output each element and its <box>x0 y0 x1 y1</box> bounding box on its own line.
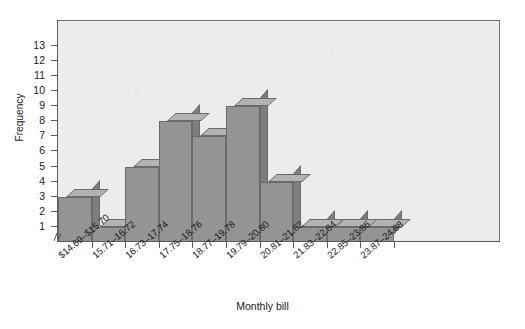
x-tick-4 <box>226 242 227 248</box>
y-tick-12 <box>51 60 58 61</box>
y-tick-7 <box>51 135 58 136</box>
x-tick-3 <box>192 242 193 248</box>
y-tick-label-3: 3 <box>23 191 45 201</box>
bars-layer <box>57 20 500 242</box>
y-tick-1 <box>51 226 58 227</box>
y-tick-label-13: 13 <box>23 40 45 50</box>
bar-top-face <box>167 113 209 121</box>
y-tick-label-1: 1 <box>23 221 45 231</box>
x-tick-9 <box>394 242 395 248</box>
x-tick-1 <box>125 242 126 248</box>
axis-break-mark <box>52 232 64 244</box>
y-tick-label-12: 12 <box>23 55 45 65</box>
y-tick-label-9: 9 <box>23 100 45 110</box>
y-axis-title: Frequency <box>14 78 25 158</box>
bar-top-face <box>234 98 276 106</box>
x-tick-2 <box>159 242 160 248</box>
histogram-chart: 12345678910111213 $14.69–$15.7015.71–16.… <box>0 0 525 329</box>
bar-top-face <box>268 174 310 182</box>
y-tick-label-4: 4 <box>23 176 45 186</box>
y-axis-line <box>57 20 58 242</box>
y-tick-label-10: 10 <box>23 85 45 95</box>
bar-top-face <box>66 189 108 197</box>
y-tick-6 <box>51 150 58 151</box>
y-tick-label-2: 2 <box>23 206 45 216</box>
y-tick-4 <box>51 181 58 182</box>
x-tick-8 <box>360 242 361 248</box>
x-tick-6 <box>293 242 294 248</box>
x-tick-5 <box>260 242 261 248</box>
y-tick-10 <box>51 90 58 91</box>
y-tick-9 <box>51 105 58 106</box>
y-tick-8 <box>51 120 58 121</box>
y-tick-3 <box>51 196 58 197</box>
x-tick-0 <box>92 242 93 248</box>
y-tick-label-8: 8 <box>23 115 45 125</box>
y-tick-label-6: 6 <box>23 145 45 155</box>
y-tick-2 <box>51 211 58 212</box>
y-tick-5 <box>51 166 58 167</box>
y-tick-label-11: 11 <box>23 70 45 80</box>
y-tick-11 <box>51 75 58 76</box>
x-tick-7 <box>327 242 328 248</box>
y-tick-label-5: 5 <box>23 161 45 171</box>
y-tick-13 <box>51 45 58 46</box>
x-axis-title: Monthly bill <box>0 300 525 312</box>
y-tick-label-7: 7 <box>23 130 45 140</box>
